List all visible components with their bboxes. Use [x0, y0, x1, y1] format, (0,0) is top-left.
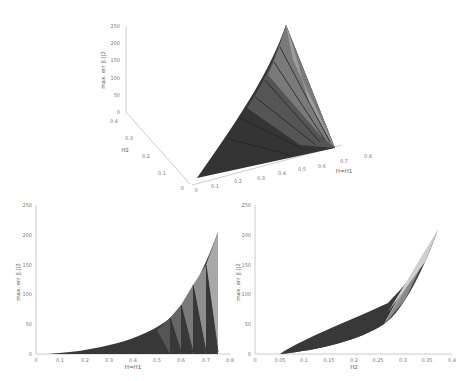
h1-axis-label: H=H1 — [336, 168, 352, 174]
surface — [197, 25, 335, 178]
svg-text:0: 0 — [34, 357, 37, 363]
figure: 0 50 100 150 200 250 max. err ||.||2 0.4… — [0, 0, 472, 381]
svg-text:0.4: 0.4 — [278, 170, 286, 176]
svg-text:0.4: 0.4 — [129, 357, 137, 363]
svg-text:250: 250 — [22, 202, 32, 208]
y-ticks: 0 50 100 150 200 250 — [241, 202, 251, 357]
svg-text:0.1: 0.1 — [300, 357, 308, 363]
svg-text:0: 0 — [181, 185, 184, 191]
svg-text:0: 0 — [29, 351, 32, 357]
svg-text:0.3: 0.3 — [105, 357, 113, 363]
x-ticks: 0 0.05 0.1 0.15 0.2 0.25 0.3 0.35 0.4 — [253, 357, 456, 363]
svg-text:0: 0 — [253, 357, 256, 363]
svg-text:0.6: 0.6 — [318, 163, 326, 169]
svg-text:150: 150 — [241, 262, 251, 268]
svg-text:100: 100 — [110, 75, 120, 81]
svg-text:0: 0 — [117, 109, 120, 115]
h2-projection-plot: 0 50 100 150 200 250 max. err ||.||2 0 0… — [235, 202, 456, 370]
z-axis-label: max. err ||.||2 — [100, 51, 107, 89]
svg-text:0.05: 0.05 — [274, 357, 285, 363]
x-axis-label: H2 — [350, 364, 358, 370]
x-axis-label: H=H1 — [125, 364, 141, 370]
svg-text:0.25: 0.25 — [372, 357, 383, 363]
y-axis-label: max. err ||.||2 — [15, 263, 22, 301]
svg-text:0.5: 0.5 — [153, 357, 161, 363]
h1-projection-plot: 0 50 100 150 200 250 max. err ||.||2 0 0… — [15, 202, 234, 370]
area — [270, 230, 438, 354]
svg-text:250: 250 — [241, 202, 251, 208]
svg-text:0.2: 0.2 — [81, 357, 89, 363]
h2-ticks: 0.4 0.3 0.2 0.1 0 — [110, 118, 184, 191]
y-axis-label: max. err ||.||2 — [235, 263, 242, 301]
svg-text:200: 200 — [241, 232, 251, 238]
svg-text:250: 250 — [110, 23, 120, 29]
x-ticks: 0 0.1 0.2 0.3 0.4 0.5 0.6 0.7 0.8 — [34, 357, 234, 363]
svg-text:0.1: 0.1 — [158, 170, 166, 176]
svg-text:100: 100 — [241, 291, 251, 297]
svg-text:0.2: 0.2 — [142, 153, 150, 159]
svg-text:50: 50 — [26, 321, 32, 327]
svg-text:0.3: 0.3 — [399, 357, 407, 363]
svg-text:0.8: 0.8 — [364, 153, 372, 159]
svg-text:50: 50 — [114, 92, 120, 98]
svg-text:0.7: 0.7 — [202, 357, 210, 363]
z-ticks: 0 50 100 150 200 250 — [110, 23, 120, 115]
svg-text:0.35: 0.35 — [421, 357, 432, 363]
svg-text:100: 100 — [22, 291, 32, 297]
svg-text:0.3: 0.3 — [125, 135, 133, 141]
svg-text:0.4: 0.4 — [448, 357, 456, 363]
surface-plot-3d: 0 50 100 150 200 250 max. err ||.||2 0.4… — [100, 23, 372, 193]
svg-text:0.4: 0.4 — [110, 118, 118, 124]
svg-text:0: 0 — [194, 187, 197, 193]
svg-text:0: 0 — [248, 351, 251, 357]
svg-text:200: 200 — [22, 232, 32, 238]
svg-text:0.2: 0.2 — [234, 178, 242, 184]
svg-text:0.3: 0.3 — [257, 175, 265, 181]
svg-text:0.7: 0.7 — [340, 158, 348, 164]
y-ticks: 0 50 100 150 200 250 — [22, 202, 32, 357]
svg-text:0.1: 0.1 — [56, 357, 64, 363]
svg-text:200: 200 — [110, 40, 120, 46]
svg-text:0.15: 0.15 — [323, 357, 334, 363]
svg-text:0.5: 0.5 — [298, 166, 306, 172]
svg-text:0.8: 0.8 — [226, 357, 234, 363]
h2-axis-label: H2 — [121, 147, 129, 153]
area — [48, 232, 218, 354]
svg-text:0.6: 0.6 — [177, 357, 185, 363]
svg-text:50: 50 — [245, 321, 251, 327]
svg-text:150: 150 — [110, 57, 120, 63]
svg-text:150: 150 — [22, 262, 32, 268]
svg-text:0.2: 0.2 — [350, 357, 358, 363]
svg-text:0.1: 0.1 — [211, 183, 219, 189]
